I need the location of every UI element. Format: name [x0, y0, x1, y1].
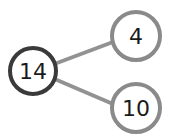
part-circle-bottom: 10 — [112, 84, 160, 132]
number-bond-diagram: 14 4 10 — [0, 0, 169, 138]
whole-circle: 14 — [10, 48, 56, 94]
whole-value: 14 — [19, 59, 47, 84]
part-value-bottom: 10 — [122, 96, 150, 121]
connector-line-top — [57, 42, 113, 63]
part-value-top: 4 — [129, 24, 143, 49]
connector-line-bottom — [57, 80, 113, 104]
part-circle-top: 4 — [112, 12, 160, 60]
